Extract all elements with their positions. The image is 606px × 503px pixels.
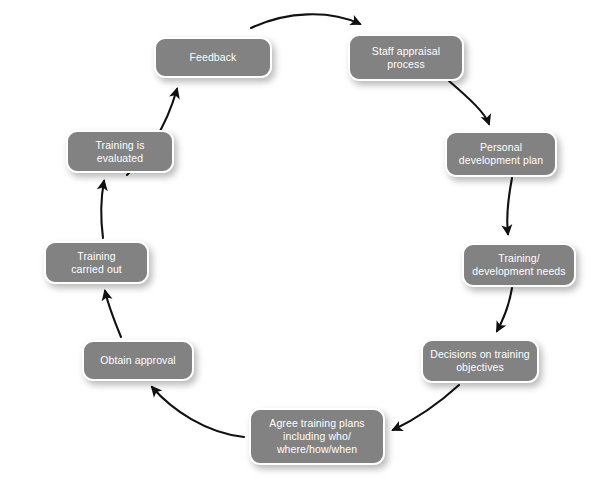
node-training-carried-out[interactable]: Training carried out [44,241,149,284]
node-label: Personal development plan [453,141,550,167]
node-training-development-needs[interactable]: Training/ development needs [462,243,576,287]
node-label: Agree training plans including who/ wher… [263,417,370,455]
edge-agree-training-plans-to-obtain-approval [152,387,244,437]
diagram-canvas: Staff appraisal process Personal develop… [0,0,606,503]
edge-feedback-to-staff-appraisal [251,14,360,28]
node-obtain-approval[interactable]: Obtain approval [82,340,194,381]
edge-training-carried-out-to-training-evaluated [101,181,104,238]
node-label: Staff appraisal process [366,45,446,71]
node-training-is-evaluated[interactable]: Training is evaluated [66,130,174,173]
node-feedback[interactable]: Feedback [154,37,272,78]
edge-obtain-approval-to-training-carried-out [105,291,121,337]
node-decisions-on-training-objectives[interactable]: Decisions on training objectives [421,339,539,383]
node-label: Feedback [184,51,243,64]
edge-personal-development-plan-to-training-needs [507,178,512,234]
node-personal-development-plan[interactable]: Personal development plan [445,131,557,177]
node-staff-appraisal-process[interactable]: Staff appraisal process [348,34,464,81]
node-label: Training is evaluated [89,139,150,165]
edge-staff-appraisal-to-personal-development-plan [449,81,489,124]
node-label: Training carried out [65,250,128,276]
node-label: Decisions on training objectives [424,348,536,374]
edge-training-needs-to-decisions [497,288,512,331]
edge-decisions-to-agree-training-plans [393,385,459,430]
node-label: Training/ development needs [466,252,571,278]
node-label: Obtain approval [94,354,182,367]
node-agree-training-plans[interactable]: Agree training plans including who/ wher… [249,408,385,465]
